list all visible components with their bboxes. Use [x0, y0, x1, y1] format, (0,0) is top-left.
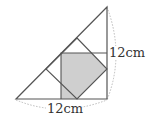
bottom-side-label: 12cm	[47, 101, 83, 116]
right-side-label: 12cm	[109, 45, 145, 60]
geometry-diagram: 12cm 12cm	[0, 0, 150, 123]
